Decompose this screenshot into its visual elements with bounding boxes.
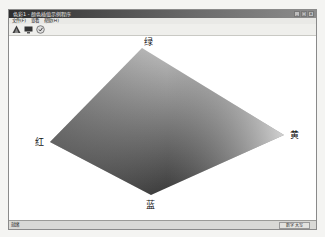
vertex-label-red: 红: [35, 137, 44, 147]
close-button[interactable]: ×: [308, 11, 314, 17]
help-tool-button[interactable]: [36, 25, 45, 34]
window-title: 色彩1 - 颜色插值示例程序: [13, 10, 71, 18]
triangle-tool-button[interactable]: [12, 25, 21, 34]
app-window: 色彩1 - 颜色插值示例程序 _ □ × 文件(F) 查看 帮助(H): [8, 9, 317, 230]
drawing-canvas[interactable]: 绿 红 黄 蓝: [9, 36, 316, 221]
status-indicators: 数字 大写: [279, 222, 310, 229]
status-bar: 就绪 数字 大写: [9, 220, 316, 229]
minimize-icon: _: [296, 11, 298, 16]
gradient-diamond: [9, 36, 316, 222]
help-icon: [36, 25, 45, 34]
close-icon: ×: [309, 11, 312, 16]
status-text: 就绪: [11, 222, 19, 228]
maximize-button[interactable]: □: [301, 11, 307, 17]
title-bar[interactable]: 色彩1 - 颜色插值示例程序 _ □ ×: [9, 10, 316, 18]
vertex-label-green: 绿: [144, 37, 153, 47]
toolbar: [9, 24, 316, 36]
monitor-tool-button[interactable]: [24, 25, 33, 34]
monitor-icon: [24, 25, 33, 34]
triangle-icon: [12, 25, 21, 34]
vertex-label-blue: 蓝: [146, 200, 155, 210]
maximize-icon: □: [302, 11, 306, 16]
vertex-label-yellow: 黄: [290, 130, 299, 140]
minimize-button[interactable]: _: [294, 11, 300, 17]
